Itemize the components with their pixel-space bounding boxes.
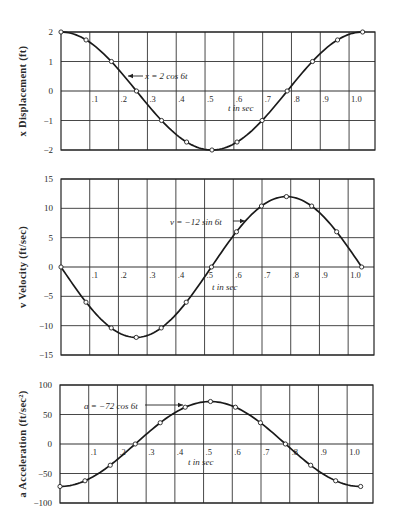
y-tick-label: 2 <box>49 27 54 37</box>
displacement-y-axis-label: x Displacement (ft) <box>17 45 29 136</box>
x-tick-label: .3 <box>149 94 155 104</box>
y-tick-label: −15 <box>39 350 54 360</box>
data-point-marker <box>259 204 263 208</box>
displacement-chart: 210−1−2.1.2.3.4.5.6.7.8.91.0x Displaceme… <box>17 27 375 155</box>
y-tick-label: 0 <box>49 86 54 96</box>
x-tick-label: .6 <box>234 447 240 457</box>
kinematics-figure: 210−1−2.1.2.3.4.5.6.7.8.91.0x Displaceme… <box>0 0 395 528</box>
data-point-marker <box>235 140 239 144</box>
data-point-marker <box>84 300 88 304</box>
data-point-marker <box>310 59 314 63</box>
data-point-marker <box>310 204 314 208</box>
data-point-marker <box>210 148 214 152</box>
x-tick-label: .5 <box>207 94 213 104</box>
x-tick-label: .9 <box>321 270 327 280</box>
acceleration-y-axis-label: a Acceleration (ft/sec²) <box>17 390 29 497</box>
x-tick-label: .4 <box>178 270 185 280</box>
data-point-marker <box>133 442 137 446</box>
x-tick-label: .1 <box>92 94 98 104</box>
data-point-marker <box>309 463 313 467</box>
x-axis-label: t in sec <box>212 282 238 292</box>
data-point-marker <box>134 335 138 339</box>
x-tick-label: .1 <box>92 270 98 280</box>
x-axis-label: t in sec <box>188 457 214 467</box>
acceleration-equation-label: a = −72 cos 6t <box>84 401 138 411</box>
velocity-equation-label: v = −12 sin 6t <box>170 217 222 227</box>
data-point-marker <box>185 140 189 144</box>
data-point-marker <box>284 195 288 199</box>
data-point-marker <box>109 326 113 330</box>
data-point-marker <box>158 421 162 425</box>
x-tick-label: .5 <box>206 447 212 457</box>
data-point-marker <box>361 30 365 34</box>
x-tick-label: .8 <box>293 270 299 280</box>
y-tick-label: −5 <box>43 291 53 301</box>
data-point-marker <box>134 89 138 93</box>
data-point-marker <box>285 89 289 93</box>
x-tick-label: .4 <box>178 94 185 104</box>
y-tick-label: −2 <box>43 145 53 155</box>
data-point-marker <box>283 442 287 446</box>
data-point-marker <box>108 463 112 467</box>
x-tick-label: .9 <box>322 94 328 104</box>
data-point-marker <box>335 38 339 42</box>
arrowhead-icon <box>128 74 133 78</box>
data-point-marker <box>58 484 62 488</box>
x-tick-label: .3 <box>148 447 154 457</box>
data-point-marker <box>359 484 363 488</box>
data-point-marker <box>208 399 212 403</box>
x-tick-label: .7 <box>263 447 269 457</box>
x-tick-label: 1.0 <box>350 270 361 280</box>
x-tick-label: .7 <box>264 270 270 280</box>
x-tick-label: .2 <box>120 270 126 280</box>
data-point-marker <box>159 326 163 330</box>
y-tick-label: 0 <box>49 262 54 272</box>
data-point-marker <box>183 405 187 409</box>
x-tick-label: .8 <box>293 94 299 104</box>
data-point-marker <box>209 265 213 269</box>
arrowhead-icon <box>178 403 183 407</box>
x-tick-label: .2 <box>121 94 127 104</box>
x-tick-label: .9 <box>320 447 326 457</box>
displacement-equation-label: x = 2 cos 6t <box>144 71 188 81</box>
y-tick-label: −50 <box>38 469 53 479</box>
x-tick-label: .7 <box>265 94 271 104</box>
x-tick-label: .6 <box>235 270 241 280</box>
data-point-marker <box>159 118 163 122</box>
data-point-marker <box>260 118 264 122</box>
x-tick-label: 1.0 <box>349 447 360 457</box>
data-point-marker <box>360 265 364 269</box>
y-tick-label: −10 <box>39 321 54 331</box>
y-tick-label: −1 <box>43 116 53 126</box>
data-point-marker <box>83 479 87 483</box>
y-tick-label: 0 <box>48 439 53 449</box>
x-axis-label: t in sec <box>228 103 254 113</box>
y-tick-label: 50 <box>43 410 53 420</box>
data-point-marker <box>234 230 238 234</box>
data-point-marker <box>184 300 188 304</box>
x-tick-label: .4 <box>177 447 184 457</box>
data-point-marker <box>233 405 237 409</box>
y-tick-label: −100 <box>33 498 52 508</box>
y-tick-label: 10 <box>44 203 54 213</box>
y-tick-label: 100 <box>39 380 53 390</box>
data-point-marker <box>109 59 113 63</box>
y-tick-label: 1 <box>49 57 54 67</box>
data-point-marker <box>84 38 88 42</box>
acceleration-chart: 100500−50−100.1.2.3.4.5.6.7.8.91.0a Acce… <box>17 380 373 508</box>
data-point-marker <box>335 230 339 234</box>
y-tick-label: 5 <box>49 233 54 243</box>
x-tick-label: .3 <box>149 270 155 280</box>
y-tick-label: 15 <box>44 174 54 184</box>
data-point-marker <box>334 479 338 483</box>
data-point-marker <box>59 30 63 34</box>
data-point-marker <box>258 421 262 425</box>
x-tick-label: 1.0 <box>351 94 362 104</box>
velocity-y-axis-label: v Velocity (ft/sec) <box>17 226 29 308</box>
x-tick-label: .1 <box>91 447 97 457</box>
velocity-chart: 151050−5−10−15.1.2.3.4.5.6.7.8.91.0v Vel… <box>17 174 374 360</box>
data-point-marker <box>59 265 63 269</box>
